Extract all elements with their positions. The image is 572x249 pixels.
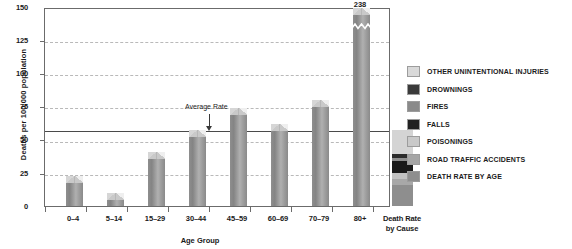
y-tick-label-100: 100 bbox=[4, 69, 28, 78]
x-tick-label-line1: Death Rate bbox=[383, 214, 421, 223]
x-tick-label-line2: by Cause bbox=[386, 224, 419, 233]
segment-death-rate-by-age[interactable] bbox=[392, 185, 413, 206]
legend-item-other-unintentional-injuries[interactable]: OTHER UNINTENTIONAL INJURIES bbox=[407, 63, 572, 81]
gridline-50 bbox=[45, 142, 389, 143]
x-tick-mark bbox=[209, 207, 210, 212]
y-tick-label-0: 0 bbox=[4, 202, 28, 211]
y-tick-label-125: 125 bbox=[4, 36, 28, 45]
bar-top-notch bbox=[189, 130, 206, 137]
legend-label: POISONINGS bbox=[427, 138, 473, 145]
y-tick-label-50: 50 bbox=[4, 135, 28, 144]
legend-label: FALLS bbox=[427, 121, 450, 128]
bar-top-notch bbox=[66, 176, 83, 183]
legend-swatch-icon bbox=[407, 84, 420, 95]
legend-item-drownings[interactable]: DROWNINGS bbox=[407, 81, 572, 99]
bar-top-notch bbox=[312, 100, 329, 107]
bar-top-notch bbox=[107, 193, 124, 200]
bar-top-notch bbox=[271, 124, 288, 131]
legend-item-road-traffic-accidents[interactable]: ROAD TRAFFIC ACCIDENTS bbox=[407, 151, 572, 169]
legend-label: DROWNINGS bbox=[427, 86, 473, 93]
bar-5-14[interactable] bbox=[107, 193, 124, 206]
axis-break-zigzag-icon bbox=[352, 23, 371, 30]
x-tick-mark bbox=[250, 207, 251, 212]
bar-value-label-80-plus: 238 bbox=[340, 0, 380, 9]
y-tick-label-150: 150 bbox=[4, 3, 28, 12]
legend: OTHER UNINTENTIONAL INJURIES DROWNINGS F… bbox=[407, 63, 572, 186]
gridline-25 bbox=[45, 175, 389, 176]
legend-label: DEATH RATE BY AGE bbox=[427, 173, 502, 180]
legend-item-fires[interactable]: FIRES bbox=[407, 98, 572, 116]
x-tick-mark bbox=[291, 207, 292, 212]
bar-top-notch bbox=[230, 108, 247, 115]
x-tick-mark bbox=[127, 207, 128, 212]
bar-60-69[interactable] bbox=[271, 124, 288, 206]
bar-top-notch bbox=[148, 152, 165, 159]
average-rate-line bbox=[45, 131, 389, 132]
bar-15-29[interactable] bbox=[148, 152, 165, 206]
bar-top-notch bbox=[353, 8, 370, 15]
average-rate-arrow-head bbox=[206, 126, 212, 131]
plot-area: Average Rate bbox=[44, 8, 390, 207]
y-tick-label-25: 25 bbox=[4, 169, 28, 178]
bar-80-plus[interactable] bbox=[353, 8, 370, 206]
x-tick-mark bbox=[168, 207, 169, 212]
bar-0-4[interactable] bbox=[66, 176, 83, 206]
chart-root: Deaths per 100,000 population 150 125 10… bbox=[0, 0, 572, 249]
legend-label: OTHER UNINTENTIONAL INJURIES bbox=[427, 68, 549, 75]
bar-45-59[interactable] bbox=[230, 108, 247, 206]
gridline-125 bbox=[45, 42, 389, 43]
legend-label: FIRES bbox=[427, 103, 448, 110]
legend-swatch-icon bbox=[407, 101, 420, 112]
legend-label: ROAD TRAFFIC ACCIDENTS bbox=[427, 156, 525, 163]
legend-swatch-icon bbox=[407, 154, 420, 165]
gridline-100 bbox=[45, 75, 389, 76]
x-tick-mark bbox=[45, 207, 46, 212]
legend-item-poisonings[interactable]: POISONINGS bbox=[407, 133, 572, 151]
bar-30-44[interactable] bbox=[189, 130, 206, 206]
x-tick-label-death-rate-by-cause: Death Rate by Cause bbox=[372, 214, 432, 234]
x-tick-mark bbox=[373, 207, 374, 212]
legend-swatch-icon bbox=[407, 171, 420, 182]
legend-swatch-icon bbox=[407, 66, 420, 77]
average-rate-annotation-label: Average Rate bbox=[185, 103, 228, 110]
legend-swatch-icon bbox=[407, 136, 420, 147]
x-axis-title: Age Group bbox=[40, 236, 360, 245]
x-tick-mark bbox=[86, 207, 87, 212]
legend-item-death-rate-by-age[interactable]: DEATH RATE BY AGE bbox=[407, 168, 572, 186]
bar-70-79[interactable] bbox=[312, 100, 329, 206]
legend-swatch-icon bbox=[407, 119, 420, 130]
legend-item-falls[interactable]: FALLS bbox=[407, 116, 572, 134]
x-tick-mark bbox=[332, 207, 333, 212]
y-tick-label-75: 75 bbox=[4, 102, 28, 111]
